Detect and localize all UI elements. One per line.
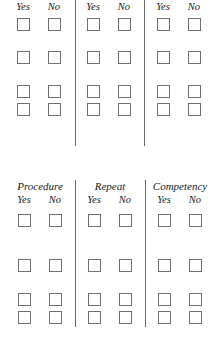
- no-label: No: [185, 194, 205, 206]
- checkbox-repeat-yes-r4[interactable]: [88, 311, 101, 324]
- no-label: No: [115, 194, 135, 206]
- checkbox-repeat-no-r2[interactable]: [119, 259, 132, 272]
- checkbox-procedure-no-r4[interactable]: [49, 311, 62, 324]
- checkbox-repeat-no-r4[interactable]: [119, 311, 132, 324]
- checkbox-competency-yes-r1[interactable]: [158, 214, 171, 227]
- checkbox-procedure-yes-r3[interactable]: [18, 293, 31, 306]
- yes-label: Yes: [84, 194, 104, 206]
- column-divider-1: [75, 180, 76, 327]
- checkbox-procedure-no-r1[interactable]: [49, 214, 62, 227]
- checkbox-repeat-no-r1[interactable]: [119, 214, 132, 227]
- checkbox-procedure-yes-r1[interactable]: [18, 214, 31, 227]
- heading-competency: Competency: [145, 180, 215, 192]
- checkbox-competency-yes-r2[interactable]: [158, 259, 171, 272]
- no-label: No: [45, 194, 65, 206]
- checkbox-procedure-no-r2[interactable]: [49, 259, 62, 272]
- bottom-checklist-section: Procedure Repeat Competency Yes No Yes N…: [0, 0, 217, 338]
- yes-label: Yes: [14, 194, 34, 206]
- checkbox-competency-no-r3[interactable]: [189, 293, 202, 306]
- checkbox-competency-yes-r4[interactable]: [158, 311, 171, 324]
- checkbox-procedure-yes-r2[interactable]: [18, 259, 31, 272]
- checkbox-repeat-yes-r1[interactable]: [88, 214, 101, 227]
- checkbox-procedure-no-r3[interactable]: [49, 293, 62, 306]
- checkbox-procedure-yes-r4[interactable]: [18, 311, 31, 324]
- checkbox-competency-yes-r3[interactable]: [158, 293, 171, 306]
- yes-label: Yes: [154, 194, 174, 206]
- checkbox-competency-no-r2[interactable]: [189, 259, 202, 272]
- heading-procedure: Procedure: [5, 180, 75, 192]
- checkbox-repeat-yes-r2[interactable]: [88, 259, 101, 272]
- checkbox-competency-no-r4[interactable]: [189, 311, 202, 324]
- heading-repeat: Repeat: [75, 180, 145, 192]
- checkbox-repeat-yes-r3[interactable]: [88, 293, 101, 306]
- column-divider-2: [145, 180, 146, 327]
- checkbox-repeat-no-r3[interactable]: [119, 293, 132, 306]
- checkbox-competency-no-r1[interactable]: [189, 214, 202, 227]
